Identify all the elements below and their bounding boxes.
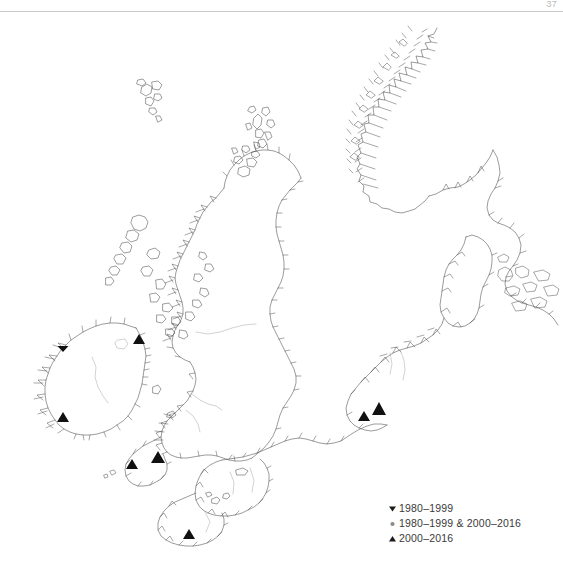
- up-triangle-icon: [386, 531, 399, 545]
- region-sweden: [487, 150, 558, 325]
- record-marker-1980-1999[interactable]: [58, 346, 69, 352]
- legend-item-both-periods: 1980–1999 & 2000–2016: [386, 516, 556, 530]
- record-marker-2000-2016[interactable]: [57, 412, 69, 422]
- region-france: [158, 459, 273, 546]
- region-orkney: [232, 142, 260, 177]
- region-norway: [346, 26, 493, 213]
- record-markers[interactable]: [57, 334, 386, 539]
- record-marker-2000-2016[interactable]: [183, 529, 195, 539]
- map-canvas[interactable]: [0, 12, 563, 562]
- map-svg: [0, 12, 563, 562]
- record-marker-2000-2016[interactable]: [372, 402, 386, 415]
- record-marker-2000-2016[interactable]: [358, 411, 370, 421]
- legend-item-1980-1999: 1980–1999: [386, 501, 556, 515]
- page-number: 37: [546, 0, 557, 10]
- record-marker-2000-2016[interactable]: [133, 334, 145, 344]
- map-figure-page: 37: [0, 0, 563, 562]
- region-nw-europe-coast: [222, 318, 444, 460]
- legend-label-2000-2016: 2000–2016: [399, 531, 453, 545]
- region-denmark: [440, 235, 559, 327]
- legend-item-2000-2016: 2000–2016: [386, 531, 556, 545]
- region-shetland: [246, 106, 275, 148]
- map-legend: 1980–1999 1980–1999 & 2000–2016 2000–201…: [386, 501, 556, 546]
- down-triangle-icon: [386, 501, 399, 515]
- record-marker-2000-2016[interactable]: [151, 451, 165, 463]
- region-outer-hebrides: [106, 215, 214, 339]
- region-faroe-islands: [137, 79, 162, 122]
- circle-icon: [386, 516, 399, 530]
- region-ireland: [34, 317, 151, 440]
- legend-label-both-periods: 1980–1999 & 2000–2016: [399, 516, 521, 530]
- legend-label-1980-1999: 1980–1999: [399, 501, 453, 515]
- region-great-britain: [104, 144, 303, 486]
